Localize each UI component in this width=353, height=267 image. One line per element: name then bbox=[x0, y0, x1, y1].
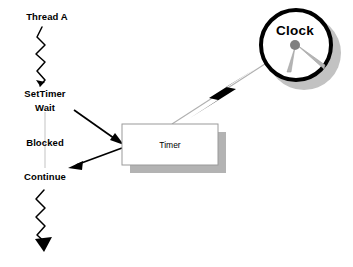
clock-label: Clock bbox=[276, 23, 314, 38]
timer-to-continue-arrow-shaft bbox=[76, 148, 122, 165]
timer-to-continue-arrowhead bbox=[68, 161, 83, 170]
label-settimer: SetTimer bbox=[24, 88, 65, 99]
clock-hub-icon bbox=[290, 40, 300, 50]
label-thread-a: Thread A bbox=[26, 11, 68, 22]
thread-zigzag-bottom bbox=[36, 190, 46, 243]
wait-to-timer-arrow-shaft bbox=[74, 110, 118, 141]
label-wait: Wait bbox=[35, 102, 55, 113]
timer-box-label: Timer bbox=[159, 140, 180, 150]
label-blocked: Blocked bbox=[26, 137, 64, 148]
thread-zigzag-bottom-arrowhead bbox=[35, 237, 52, 252]
diagram-svg bbox=[0, 0, 353, 267]
diagram-canvas: Thread A SetTimer Wait Blocked Continue … bbox=[0, 0, 353, 267]
label-continue: Continue bbox=[24, 171, 66, 182]
thread-zigzag-top bbox=[36, 27, 45, 86]
